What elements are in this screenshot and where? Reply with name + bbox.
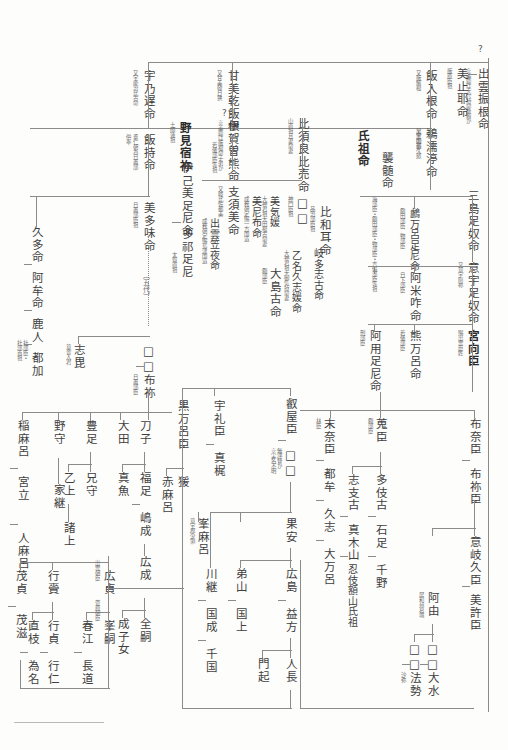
- node-kitashiko[interactable]: 岐多志古命: [312, 248, 322, 301]
- link: [10, 524, 18, 525]
- node-mitoya[interactable]: 美止耶命: [455, 68, 467, 118]
- node-kawatsugu[interactable]: 川継: [204, 568, 216, 593]
- annotation-ayu: 居和州葛城: [419, 592, 425, 617]
- node-tonoko[interactable]: 刀子: [138, 420, 150, 445]
- node-izumo-furune[interactable]: 出雲振根命: [476, 68, 488, 131]
- node-tamena[interactable]: 為名: [26, 660, 38, 685]
- annotation-kando: 神門臣祖: [288, 196, 294, 216]
- node-mikotoomi[interactable]: 美許臣: [468, 594, 480, 632]
- node-ureomi[interactable]: 宇礼臣: [212, 400, 224, 438]
- node-amekui[interactable]: 阿米咋命: [408, 272, 420, 322]
- node-oomaro[interactable]: 大万呂: [322, 548, 334, 586]
- node-miyatachi[interactable]: 宮立: [16, 476, 28, 501]
- node-kakukaku[interactable]: □□: [142, 344, 154, 373]
- node-toyotari[interactable]: 豊足: [84, 420, 96, 445]
- node-nomori[interactable]: 野守: [52, 420, 64, 445]
- node-shibi[interactable]: 志毘: [72, 344, 84, 369]
- node-kushi[interactable]: 久志: [322, 508, 334, 533]
- annotation-iimochi: 垂仁朝為日置部: [133, 134, 139, 169]
- node-naoeda[interactable]: 直枝: [26, 620, 38, 645]
- node-kisumi[interactable]: 支須美命: [226, 186, 238, 236]
- node-shigesada[interactable]: 茂貞: [14, 570, 26, 595]
- annotation-mitoya: 飯原臣祖: [447, 68, 453, 88]
- node-chino[interactable]: 千野: [374, 564, 386, 589]
- node-oshibuki[interactable]: 忍伎額山氏祖: [346, 564, 356, 627]
- node-box-a[interactable]: □□: [408, 642, 420, 671]
- node-hironari[interactable]: 広成: [138, 556, 150, 581]
- node-funaomi[interactable]: 布奈臣: [468, 418, 480, 456]
- v-line: [144, 544, 145, 556]
- frame-h: [20, 688, 110, 689]
- node-fukutari[interactable]: 福足: [138, 472, 150, 497]
- node-makaji[interactable]: 真梶: [212, 452, 224, 477]
- node-kuninari[interactable]: 国成: [204, 608, 216, 633]
- node-izumokasaya[interactable]: 出雲笠夜命: [208, 218, 218, 271]
- frame-h: [182, 708, 292, 709]
- node-ikomiashine[interactable]: 伊己美足尼命: [180, 162, 192, 237]
- node-nagamichi[interactable]: 長道: [80, 660, 92, 685]
- node-yukihito[interactable]: 行仁: [46, 660, 58, 685]
- node-amumikoto[interactable]: 阿牟命: [30, 272, 42, 310]
- node-masukata[interactable]: 益方: [284, 608, 296, 633]
- node-yukisada[interactable]: 行貞: [46, 620, 58, 645]
- node-hateyasu[interactable]: 果安: [284, 518, 296, 543]
- node-ujiso[interactable]: 氏祖命: [356, 130, 368, 168]
- node-minebu[interactable]: 美尼布命: [250, 196, 260, 238]
- node-yukitada-parent[interactable]: 行賫: [46, 570, 58, 595]
- node-kutamikoto[interactable]: 久多命: [30, 226, 42, 264]
- node-tsumu[interactable]: 都牟: [322, 468, 334, 493]
- node-morokami[interactable]: 諸上: [62, 522, 74, 547]
- node-takiko[interactable]: 多伎古: [374, 474, 386, 512]
- node-chikuni[interactable]: 千国: [204, 648, 216, 673]
- node-kunikami[interactable]: 国上: [234, 608, 246, 633]
- node-shikahito[interactable]: 鹿人: [30, 318, 42, 343]
- node-suenaomi[interactable]: 末奈臣: [322, 418, 334, 456]
- node-eiya-omi[interactable]: 叡屋臣: [284, 398, 296, 436]
- bar: [432, 528, 476, 529]
- node-oshimako[interactable]: 大島古命: [268, 268, 280, 318]
- node-tsuka[interactable]: 都加: [30, 352, 42, 377]
- node-kakukaku-kando[interactable]: □□: [296, 196, 308, 225]
- node-takeashine[interactable]: 多祁足尼: [180, 228, 192, 278]
- frame-v: [108, 556, 109, 688]
- node-hitonaga[interactable]: 人長: [284, 658, 296, 683]
- gen4-bar-mid: [202, 180, 302, 181]
- node-shimanari[interactable]: 嶋成: [138, 512, 150, 537]
- node-harue[interactable]: 春江: [80, 620, 92, 645]
- node-okihisaomi[interactable]: 意岐久臣: [468, 536, 480, 586]
- node-mana[interactable]: 真魚: [116, 472, 128, 497]
- node-nariko-onna[interactable]: 成子女: [116, 618, 128, 656]
- node-ayu[interactable]: 阿由: [426, 592, 438, 617]
- node-animori[interactable]: 兄守: [84, 472, 96, 497]
- node-ota[interactable]: 大田: [116, 420, 128, 445]
- link: [198, 640, 206, 641]
- node-akamaro[interactable]: 赤麻呂: [160, 476, 172, 514]
- node-zenshi[interactable]: 全嗣: [138, 618, 150, 643]
- node-hossei[interactable]: 法勢: [408, 672, 420, 697]
- node-kadooki[interactable]: 門起: [256, 658, 268, 683]
- node-minemaro[interactable]: 峯麻呂: [196, 518, 208, 556]
- node-otonakushihime[interactable]: 乙名久志媛命: [290, 250, 300, 313]
- v-line: [148, 134, 149, 196]
- node-aomi[interactable]: 蒐臣: [374, 418, 386, 443]
- node-mikehime[interactable]: 美気媛: [268, 196, 278, 228]
- node-shishiko[interactable]: 志支古: [346, 474, 358, 512]
- tick: [166, 468, 167, 476]
- annotation-kakukaku-unknown-2: ※実名不明: [271, 448, 277, 473]
- node-ishitari[interactable]: 石足: [374, 524, 386, 549]
- node-oomizu[interactable]: 大水: [426, 672, 438, 697]
- node-ayoashine[interactable]: 阿用足尼命: [368, 330, 380, 393]
- node-otoyama[interactable]: 弟山: [234, 568, 246, 593]
- tick: [144, 464, 145, 472]
- node-shigeshige[interactable]: 茂滋: [14, 614, 26, 639]
- node-umaromashine[interactable]: 鸕万呂足尼命: [408, 208, 418, 271]
- node-kakukaku-unknown[interactable]: □□: [284, 448, 296, 477]
- node-kumamaro[interactable]: 熊万呂命: [408, 330, 420, 380]
- node-hitomaro[interactable]: 人麻呂: [16, 532, 28, 570]
- node-box-b[interactable]: □□: [426, 642, 438, 671]
- node-hiroshima[interactable]: 広島: [284, 568, 296, 593]
- node-inamaro[interactable]: 稲麻呂: [16, 420, 28, 458]
- node-otokami[interactable]: 乙上: [62, 472, 74, 497]
- node-sonetsumi[interactable]: 襲髄命: [380, 152, 392, 190]
- link: [420, 664, 428, 665]
